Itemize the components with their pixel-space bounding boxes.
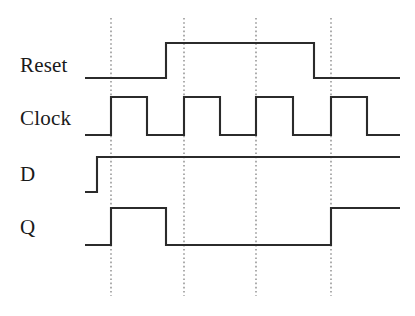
waveform-q <box>85 208 400 245</box>
signal-label-group: Reset Clock D Q <box>20 53 71 239</box>
signal-label-d: D <box>20 162 35 186</box>
signal-label-clock: Clock <box>20 106 71 130</box>
waveform-reset <box>85 43 400 78</box>
timing-diagram-canvas: Reset Clock D Q <box>0 0 415 316</box>
waveform-clock <box>85 97 400 135</box>
signal-label-reset: Reset <box>20 53 68 77</box>
timing-diagram: Reset Clock D Q <box>0 0 415 316</box>
signal-label-q: Q <box>20 215 35 239</box>
waveform-group <box>85 43 400 245</box>
waveform-d <box>85 157 400 192</box>
